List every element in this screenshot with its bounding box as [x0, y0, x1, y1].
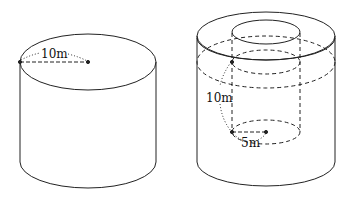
center-point [86, 60, 89, 63]
outer-top-ellipse [197, 12, 335, 60]
surface-front-arc [197, 38, 335, 60]
solid-cylinder [18, 34, 156, 188]
radius-dim-right [68, 54, 87, 61]
radius-dim-left [21, 53, 40, 60]
inner-radius-label: 5m [241, 136, 261, 150]
bottom-point [230, 130, 233, 133]
edge-point [18, 60, 21, 63]
height-label: 10m [206, 91, 233, 105]
top-point [230, 60, 233, 63]
diagram-canvas: 10m 10m 5m [0, 0, 352, 201]
inner-mid-ellipse [232, 50, 300, 74]
radius-label: 10m [41, 47, 68, 61]
center-point [264, 130, 267, 133]
height-dim-lower [220, 104, 231, 131]
outer-bottom-arc [197, 162, 335, 186]
inner-top-ellipse [232, 20, 300, 44]
bottom-arc [20, 162, 156, 188]
cylinders-diagram: 10m 10m 5m [0, 0, 352, 201]
